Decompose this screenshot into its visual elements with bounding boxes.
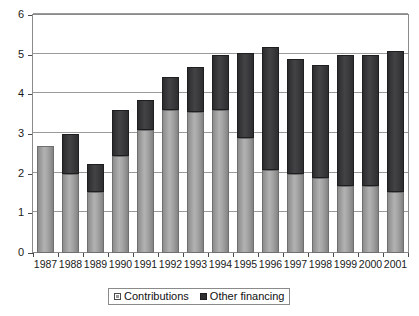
x-tick-label-1997: 1997 bbox=[283, 257, 308, 271]
bar-1992 bbox=[162, 15, 179, 253]
x-tick-label-1993: 1993 bbox=[183, 257, 208, 271]
x-axis-tick-labels: 1987198819891990199119921993199419951996… bbox=[33, 257, 408, 273]
bar-1998 bbox=[312, 15, 329, 253]
bar-segment-other-financing-1993 bbox=[187, 67, 204, 113]
x-tick-label-2000: 2000 bbox=[358, 257, 383, 271]
bar-segment-contributions-1989 bbox=[87, 192, 104, 253]
bar-2000 bbox=[362, 15, 379, 253]
x-tick-label-1995: 1995 bbox=[233, 257, 258, 271]
x-tick-label-1990: 1990 bbox=[108, 257, 133, 271]
y-tick-label-0: 0 bbox=[2, 247, 24, 258]
x-tick-label-1998: 1998 bbox=[308, 257, 333, 271]
bar-segment-other-financing-1990 bbox=[112, 110, 129, 156]
y-tick-label-3: 3 bbox=[2, 128, 24, 139]
bar-1997 bbox=[287, 15, 304, 253]
bar-segment-contributions-2000 bbox=[362, 186, 379, 253]
bar-segment-other-financing-1992 bbox=[162, 77, 179, 111]
bar-segment-other-financing-1999 bbox=[337, 55, 354, 186]
bar-segment-contributions-1993 bbox=[187, 112, 204, 253]
bar-segment-contributions-1991 bbox=[137, 130, 154, 253]
bar-segment-other-financing-1994 bbox=[212, 55, 229, 111]
bar-segment-contributions-1999 bbox=[337, 186, 354, 253]
bar-1989 bbox=[87, 15, 104, 253]
y-tick-label-5: 5 bbox=[2, 49, 24, 60]
x-tick-label-1988: 1988 bbox=[58, 257, 83, 271]
bar-1993 bbox=[187, 15, 204, 253]
bar-segment-contributions-1994 bbox=[212, 110, 229, 253]
bar-1995 bbox=[237, 15, 254, 253]
bar-segment-other-financing-1991 bbox=[137, 100, 154, 130]
bar-segment-other-financing-1997 bbox=[287, 59, 304, 174]
x-tick-label-1987: 1987 bbox=[33, 257, 58, 271]
y-tick-label-1: 1 bbox=[2, 207, 24, 218]
legend-item-other-financing: Other financing bbox=[200, 291, 285, 302]
bar-1996 bbox=[262, 15, 279, 253]
bar-segment-other-financing-1996 bbox=[262, 47, 279, 170]
bar-1988 bbox=[62, 15, 79, 253]
bar-segment-other-financing-1989 bbox=[87, 164, 104, 192]
legend-label-other-financing: Other financing bbox=[210, 291, 285, 302]
legend-item-contributions: Contributions bbox=[114, 291, 189, 302]
x-tick-label-1994: 1994 bbox=[208, 257, 233, 271]
x-tick-label-1992: 1992 bbox=[158, 257, 183, 271]
bar-segment-contributions-1992 bbox=[162, 110, 179, 253]
bar-segment-contributions-1995 bbox=[237, 138, 254, 253]
bar-segment-other-financing-2001 bbox=[387, 51, 404, 192]
bar-segment-other-financing-1998 bbox=[312, 65, 329, 178]
bar-segment-contributions-1990 bbox=[112, 156, 129, 253]
y-tick-label-6: 6 bbox=[2, 9, 24, 20]
stacked-bar-chart: 0123456 19871988198919901991199219931994… bbox=[0, 0, 419, 316]
other-financing-swatch-icon bbox=[200, 293, 207, 300]
bar-segment-contributions-1996 bbox=[262, 170, 279, 253]
legend-label-contributions: Contributions bbox=[124, 291, 189, 302]
bar-segment-other-financing-2000 bbox=[362, 55, 379, 186]
contributions-swatch-icon bbox=[114, 293, 121, 300]
x-tick-label-1991: 1991 bbox=[133, 257, 158, 271]
bar-segment-other-financing-1995 bbox=[237, 53, 254, 138]
x-tick-label-1989: 1989 bbox=[83, 257, 108, 271]
bar-segment-contributions-1988 bbox=[62, 174, 79, 253]
bar-1999 bbox=[337, 15, 354, 253]
bars-layer bbox=[33, 15, 408, 253]
bar-1994 bbox=[212, 15, 229, 253]
x-tick-label-2001: 2001 bbox=[383, 257, 408, 271]
bar-2001 bbox=[387, 15, 404, 253]
x-tick-end bbox=[408, 253, 409, 257]
chart-legend: Contributions Other financing bbox=[108, 288, 290, 305]
x-tick-label-1996: 1996 bbox=[258, 257, 283, 271]
y-tick-label-4: 4 bbox=[2, 88, 24, 99]
bar-1987 bbox=[37, 15, 54, 253]
bar-segment-other-financing-1988 bbox=[62, 134, 79, 174]
bar-segment-contributions-2001 bbox=[387, 192, 404, 253]
y-tick-0 bbox=[28, 253, 32, 254]
y-tick-label-2: 2 bbox=[2, 168, 24, 179]
x-tick-label-1999: 1999 bbox=[333, 257, 358, 271]
bar-segment-contributions-1987 bbox=[37, 146, 54, 253]
bar-1991 bbox=[137, 15, 154, 253]
bar-segment-contributions-1997 bbox=[287, 174, 304, 253]
gridline-6 bbox=[33, 13, 408, 14]
bar-1990 bbox=[112, 15, 129, 253]
bar-segment-contributions-1998 bbox=[312, 178, 329, 253]
